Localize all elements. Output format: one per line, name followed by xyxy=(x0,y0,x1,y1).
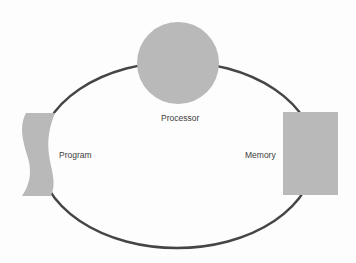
program-label: Program xyxy=(59,151,92,160)
program-node xyxy=(22,113,55,196)
memory-node xyxy=(283,112,338,195)
diagram-svg xyxy=(0,0,356,263)
processor-label: Processor xyxy=(161,114,199,123)
processor-node xyxy=(137,22,219,104)
memory-label: Memory xyxy=(245,151,276,160)
diagram-canvas: Processor Program Memory xyxy=(0,0,356,263)
